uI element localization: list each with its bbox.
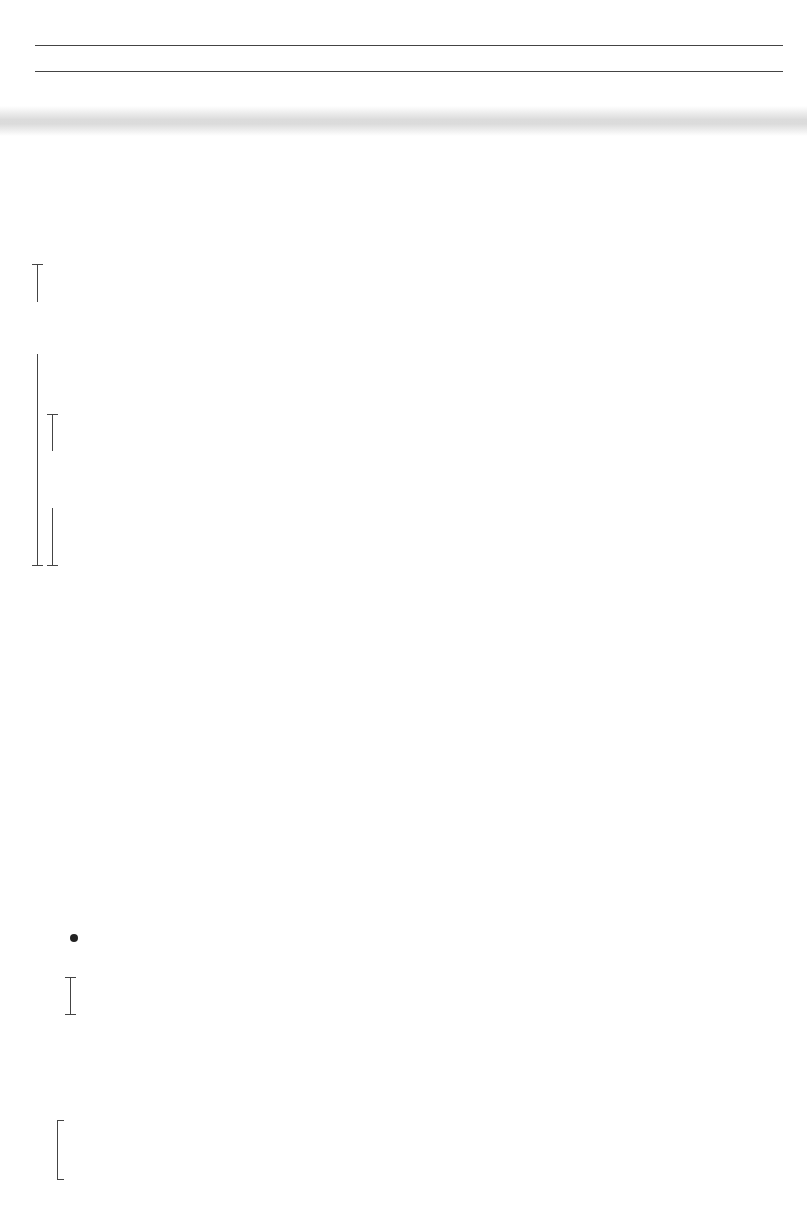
partograph-grids: [0, 0, 807, 1221]
